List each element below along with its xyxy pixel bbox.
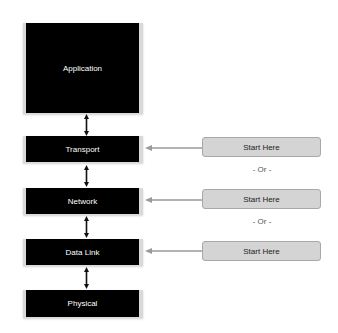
double-arrow-icon [84,114,89,136]
layer-network: Network [23,188,143,215]
layer-physical-label: Physical [68,299,98,308]
double-arrow-icon [84,165,89,187]
start-here-transport-button[interactable]: Start Here [202,137,321,157]
double-arrow-icon [84,216,89,238]
layer-data-link: Data Link [23,239,143,266]
or-separator: - Or - [232,217,292,226]
layer-network-label: Network [68,197,97,206]
layer-transport-label: Transport [66,145,100,154]
layer-application-box: Application [26,23,139,113]
layer-data-link-label: Data Link [66,248,100,257]
layer-transport-box: Transport [26,136,139,162]
layer-physical: Physical [23,290,143,318]
left-arrow-icon [145,196,203,204]
left-arrow-icon [145,144,203,152]
double-arrow-icon [84,267,89,289]
layer-physical-box: Physical [26,290,139,317]
layer-application: Application [23,23,143,114]
start-here-label: Start Here [243,143,279,152]
or-separator: - Or - [232,165,292,174]
start-here-label: Start Here [243,195,279,204]
left-arrow-icon [145,247,203,255]
layer-transport: Transport [23,136,143,163]
layer-application-label: Application [63,64,102,73]
layer-network-box: Network [26,188,139,214]
start-here-label: Start Here [243,247,279,256]
start-here-network-button[interactable]: Start Here [202,189,321,209]
layer-data-link-box: Data Link [26,239,139,265]
start-here-data-link-button[interactable]: Start Here [202,241,321,261]
